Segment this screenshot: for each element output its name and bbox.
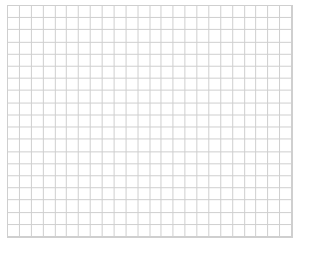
grid-paper [7, 5, 293, 238]
grid-lines [7, 5, 292, 237]
canvas [0, 0, 314, 262]
